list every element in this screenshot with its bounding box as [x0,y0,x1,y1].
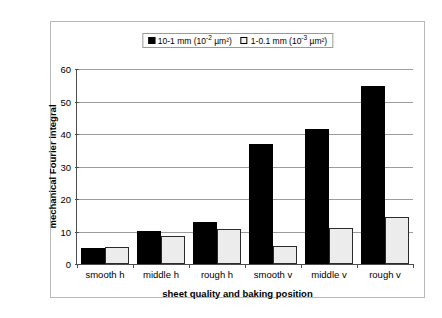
bar [105,247,129,264]
bar-group [189,69,245,264]
legend-swatch-filled-square-icon [148,37,155,44]
x-tick-mark [301,264,302,268]
bar-group [77,69,133,264]
legend-entry-series-1: 10-1 mm (10-2 µm²) [148,35,232,45]
x-category-label: rough v [357,269,413,280]
bar [305,129,329,264]
x-tick-mark [189,264,190,268]
x-tick-mark [77,264,78,268]
x-category-label: middle h [133,269,189,280]
bar-group [301,69,357,264]
legend-entry-series-2: 1-0.1 mm (10-3 µm²) [241,35,327,45]
x-tick-mark [133,264,134,268]
bar [137,231,161,264]
chart-legend: 10-1 mm (10-2 µm²) 1-0.1 mm (10-3 µm²) [142,33,333,48]
legend-label-series-1: 10-1 mm (10-2 µm²) [158,35,232,45]
chart-figure: 10-1 mm (10-2 µm²) 1-0.1 mm (10-3 µm²) 0… [50,21,425,298]
bar [361,86,385,264]
bar [385,217,409,264]
bar-group [357,69,413,264]
bar [161,236,185,264]
x-axis-category-labels: smooth hmiddle hrough hsmooth vmiddle vr… [77,269,413,280]
bar [249,144,273,264]
legend-label-series-2-base: 1-0.1 mm (10 [251,36,302,46]
legend-swatch-open-square-icon [241,37,248,44]
x-category-label: middle v [301,269,357,280]
legend-label-series-1-tail: µm²) [212,36,232,46]
bar [329,228,353,264]
bar [217,229,241,264]
bar [81,248,105,264]
legend-label-series-2: 1-0.1 mm (10-3 µm²) [251,35,327,45]
bar-group [245,69,301,264]
x-tick-mark [245,264,246,268]
x-tick-mark [413,264,414,268]
bar [273,246,297,264]
legend-label-series-1-base: 10-1 mm (10 [158,36,206,46]
x-category-label: smooth v [245,269,301,280]
bar-groups [77,69,413,264]
y-axis-title: mechanical Fourier integral [45,69,59,264]
bar [193,222,217,264]
legend-label-series-2-tail: µm²) [307,36,327,46]
y-axis-title-text: mechanical Fourier integral [47,104,58,228]
x-category-label: smooth h [77,269,133,280]
x-tick-mark [357,264,358,268]
bar-group [133,69,189,264]
x-category-label: rough h [189,269,245,280]
x-axis-title: sheet quality and baking position [51,288,424,299]
